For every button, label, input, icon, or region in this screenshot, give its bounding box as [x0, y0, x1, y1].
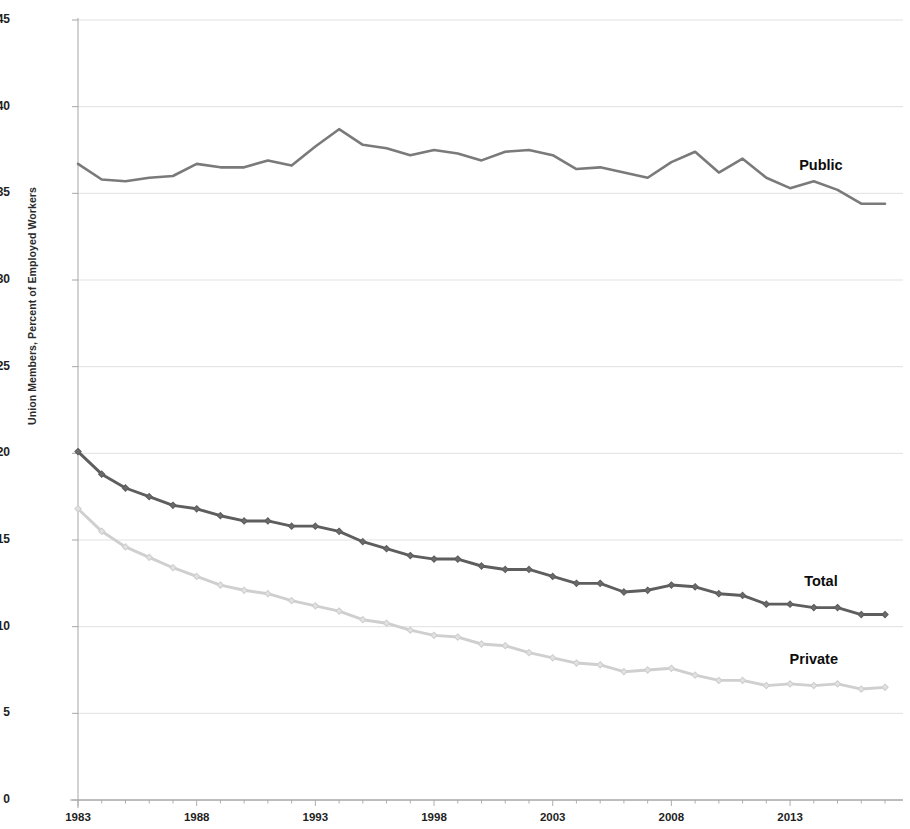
- series-public: [78, 129, 885, 204]
- y-tick-label: 35: [0, 186, 10, 198]
- series-label-public: Public: [799, 157, 843, 173]
- y-tick-label: 10: [0, 620, 10, 632]
- x-tick-label: 2013: [777, 811, 803, 823]
- y-tick-label: 0: [3, 793, 10, 805]
- series-label-private: Private: [790, 651, 838, 667]
- series-label-total: Total: [804, 573, 838, 589]
- x-tick-label: 1988: [184, 811, 210, 823]
- gridlines: [78, 20, 903, 800]
- union-membership-line-chart: Union Members, Percent of Employed Worke…: [0, 0, 910, 829]
- y-tick-label: 20: [0, 446, 10, 458]
- y-tick-label: 5: [3, 706, 10, 718]
- x-tick-label: 2008: [659, 811, 685, 823]
- y-axis-tick-marks: [72, 20, 78, 800]
- series-private: [75, 506, 888, 692]
- y-tick-label: 25: [0, 360, 10, 372]
- data-series-layer: [75, 129, 888, 692]
- y-tick-label: 15: [0, 533, 10, 545]
- x-tick-label: 1993: [303, 811, 329, 823]
- x-axis-tick-marks: [78, 800, 885, 806]
- x-tick-label: 2003: [540, 811, 566, 823]
- x-tick-label: 1983: [65, 811, 91, 823]
- y-axis-tick-labels: 454035302520151050: [0, 0, 56, 829]
- y-tick-label: 30: [0, 273, 10, 285]
- y-tick-label: 45: [0, 13, 10, 25]
- x-tick-label: 1998: [421, 811, 447, 823]
- y-tick-label: 40: [0, 100, 10, 112]
- chart-plot-area: [0, 0, 910, 829]
- series-total: [75, 449, 888, 618]
